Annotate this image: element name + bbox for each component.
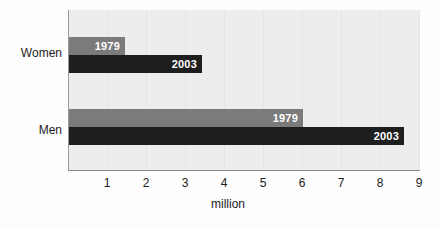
xtick-7: 7 [329, 176, 353, 190]
gridline-1 [107, 10, 108, 170]
gridline-3 [185, 10, 186, 170]
gridline-8 [380, 10, 381, 170]
gridline-6 [302, 10, 303, 170]
xtick-2: 2 [134, 176, 158, 190]
gridline-4 [224, 10, 225, 170]
gridline-2 [146, 10, 147, 170]
category-label-women: Women [0, 46, 62, 60]
bar-label-women-2003: 2003 [172, 59, 197, 70]
gridline-7 [341, 10, 342, 170]
gridline-9 [419, 10, 420, 170]
bar-chart: Women Men 1979 2003 1979 2003 1 2 3 [0, 0, 440, 227]
xtick-8: 8 [368, 176, 392, 190]
xtick-3: 3 [173, 176, 197, 190]
x-axis-title: million [0, 197, 440, 211]
bar-women-2003: 2003 [69, 55, 202, 73]
x-axis-title-text: million [211, 197, 245, 211]
xtick-6: 6 [290, 176, 314, 190]
category-label-men: Men [0, 123, 62, 137]
xtick-9: 9 [407, 176, 431, 190]
xtick-4: 4 [212, 176, 236, 190]
plot-area: 1979 2003 1979 2003 [68, 10, 420, 171]
bar-label-men-2003: 2003 [374, 131, 399, 142]
xtick-1: 1 [95, 176, 119, 190]
bar-label-men-1979: 1979 [273, 113, 298, 124]
bar-women-1979: 1979 [69, 37, 125, 55]
xtick-5: 5 [251, 176, 275, 190]
bar-men-2003: 2003 [69, 127, 404, 145]
bar-men-1979: 1979 [69, 109, 303, 127]
gridline-5 [263, 10, 264, 170]
bar-label-women-1979: 1979 [95, 41, 120, 52]
